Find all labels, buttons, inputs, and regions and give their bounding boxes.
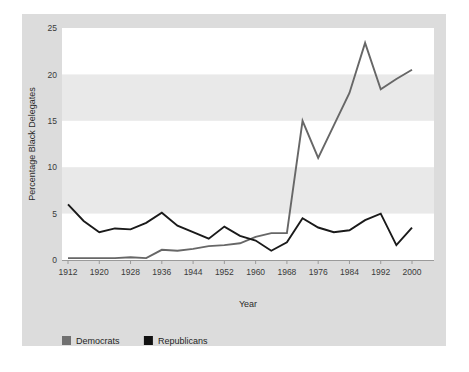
chart-figure: 0510152025 19121920192819361944195219601… (0, 0, 469, 372)
x-axis-tick-label: 1992 (371, 267, 390, 277)
legend-swatch (144, 336, 153, 345)
y-axis-tick-label: 5 (52, 209, 57, 219)
x-axis-title: Year (239, 299, 257, 309)
x-axis-tick-label: 1984 (340, 267, 359, 277)
y-axis-title: Percentage Black Delegates (27, 87, 37, 201)
x-axis-tick-label: 1976 (309, 267, 328, 277)
legend-item-democrats[interactable]: Democrats (62, 336, 120, 346)
y-axis-tick-label: 15 (48, 116, 58, 126)
line-chart-plot: 0510152025 19121920192819361944195219601… (0, 0, 469, 372)
x-axis-tick-label: 1968 (277, 267, 296, 277)
grid-band (62, 167, 434, 213)
x-axis-tick-label: 1928 (121, 267, 140, 277)
x-axis-tick-label: 1936 (152, 267, 171, 277)
x-axis-tick-label: 1920 (90, 267, 109, 277)
x-axis-tick-label: 1912 (59, 267, 78, 277)
y-axis-tick-label: 10 (48, 162, 58, 172)
x-axis-tick-label: 1952 (215, 267, 234, 277)
legend-swatch (62, 336, 71, 345)
x-axis-tick-label: 1944 (184, 267, 203, 277)
y-axis-tick-label: 0 (52, 255, 57, 265)
legend-label: Democrats (76, 336, 120, 346)
x-axis-tick-label: 1960 (246, 267, 265, 277)
y-axis-tick-label: 20 (48, 70, 58, 80)
band-group (22, 14, 446, 346)
y-axis-tick-label: 25 (48, 23, 58, 33)
legend-label: Republicans (158, 336, 208, 346)
x-axis-tick-label: 2000 (403, 267, 422, 277)
